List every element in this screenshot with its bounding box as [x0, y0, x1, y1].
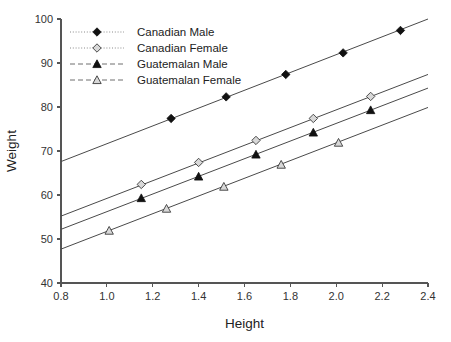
trend-line-guatemalan-female — [61, 107, 428, 249]
data-point-marker — [220, 182, 228, 190]
x-tick-label: 2.2 — [374, 290, 389, 302]
legend-label: Canadian Female — [137, 42, 228, 54]
legend: Canadian MaleCanadian FemaleGuatemalan M… — [70, 26, 241, 86]
legend-label: Guatemalan Female — [137, 74, 241, 86]
chart-container: 0.81.01.21.41.61.82.02.22.4 405060708090… — [0, 0, 451, 342]
x-axis-ticks: 0.81.01.21.41.61.82.02.22.4 — [53, 283, 435, 302]
data-point-marker — [366, 106, 374, 114]
y-tick-label: 100 — [35, 13, 53, 25]
y-tick-label: 50 — [41, 233, 53, 245]
x-tick-label: 1.2 — [145, 290, 160, 302]
trend-lines — [61, 19, 428, 249]
data-point-marker — [252, 136, 260, 144]
data-point-marker — [137, 180, 145, 188]
y-tick-label: 80 — [41, 101, 53, 113]
y-tick-label: 60 — [41, 189, 53, 201]
legend-label: Canadian Male — [137, 26, 214, 38]
x-tick-label: 1.0 — [99, 290, 114, 302]
data-point-marker — [396, 26, 404, 34]
legend-marker — [93, 28, 101, 36]
scatter-plot: 0.81.01.21.41.61.82.02.22.4 405060708090… — [0, 0, 451, 342]
y-tick-label: 90 — [41, 57, 53, 69]
x-tick-label: 0.8 — [53, 290, 68, 302]
x-tick-label: 2.0 — [329, 290, 344, 302]
y-axis-ticks: 405060708090100 — [35, 13, 61, 289]
trend-line-guatemalan-male — [61, 88, 428, 229]
x-tick-label: 1.4 — [191, 290, 206, 302]
data-point-marker — [309, 114, 317, 122]
data-point-marker — [167, 114, 175, 122]
data-point-marker — [222, 93, 230, 101]
data-point-marker — [309, 128, 317, 136]
x-tick-label: 1.6 — [237, 290, 252, 302]
trend-line-canadian-male — [61, 19, 428, 162]
data-point-marker — [105, 226, 113, 234]
y-tick-label: 70 — [41, 145, 53, 157]
x-tick-label: 2.4 — [420, 290, 435, 302]
data-point-marker — [366, 92, 374, 100]
data-point-marker — [334, 138, 342, 146]
x-tick-label: 1.8 — [283, 290, 298, 302]
legend-label: Guatemalan Male — [137, 58, 228, 70]
y-tick-label: 40 — [41, 277, 53, 289]
data-point-marker — [194, 158, 202, 166]
x-axis-title: Height — [225, 316, 264, 331]
data-point-marker — [252, 150, 260, 158]
data-point-marker — [282, 70, 290, 78]
axes — [61, 19, 428, 283]
data-point-marker — [162, 204, 170, 212]
data-point-marker — [339, 49, 347, 57]
data-point-marker — [194, 172, 202, 180]
legend-marker — [93, 44, 101, 52]
y-axis-title: Weight — [4, 130, 19, 172]
data-point-marker — [277, 160, 285, 168]
